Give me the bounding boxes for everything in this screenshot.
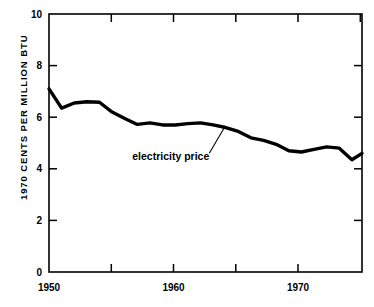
y-tick-label: 10 xyxy=(31,9,43,20)
y-axis-tick-labels: 10 8 6 4 2 0 xyxy=(31,9,43,278)
y-axis-ticks-right xyxy=(354,66,362,221)
x-tick-label: 1960 xyxy=(162,282,185,293)
y-tick-label: 0 xyxy=(36,267,42,278)
y-tick-label: 2 xyxy=(36,215,42,226)
x-axis-ticks-top xyxy=(111,14,360,22)
y-axis-title: 1970 CENTS PER MILLION BTU xyxy=(18,35,29,200)
chart-figure: 1970 CENTS PER MILLION BTU 10 8 6 4 2 0 xyxy=(0,0,374,307)
annotation-label-electricity-price: electricity price xyxy=(132,150,209,162)
x-axis-ticks xyxy=(111,264,298,272)
line-chart: 1970 CENTS PER MILLION BTU 10 8 6 4 2 0 xyxy=(0,0,374,307)
x-axis-tick-labels: 1950 1960 1970 xyxy=(38,282,310,293)
plot-frame xyxy=(49,14,362,272)
x-tick-label: 1950 xyxy=(38,282,61,293)
x-tick-label: 1970 xyxy=(287,282,310,293)
y-tick-label: 4 xyxy=(36,163,42,174)
y-tick-label: 6 xyxy=(36,112,42,123)
y-tick-label: 8 xyxy=(36,60,42,71)
annotation-leader-line xyxy=(209,128,224,154)
